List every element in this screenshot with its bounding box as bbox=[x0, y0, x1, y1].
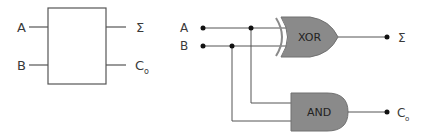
block-input-b-label: B bbox=[17, 58, 26, 73]
junction-b bbox=[230, 44, 235, 49]
xor-input-arc bbox=[276, 18, 282, 56]
input-a-terminal bbox=[201, 26, 206, 31]
wire-a-to-and bbox=[251, 28, 292, 103]
gate-circuit: A B XOR Σ AND C o bbox=[180, 17, 409, 131]
block-output-carry-label: C bbox=[135, 58, 144, 73]
half-adder-diagram: A B Σ C o A B XOR Σ AND C o bbox=[0, 0, 423, 137]
input-b-terminal bbox=[201, 44, 206, 49]
block-output-sum-label: Σ bbox=[136, 20, 144, 35]
block-output-carry-sub: o bbox=[144, 67, 149, 76]
half-adder-box bbox=[48, 8, 106, 84]
circuit-sum-label: Σ bbox=[398, 31, 406, 45]
carry-terminal bbox=[385, 110, 390, 115]
junction-a bbox=[249, 26, 254, 31]
circuit-carry-sub: o bbox=[405, 115, 409, 123]
sum-terminal bbox=[385, 35, 390, 40]
circuit-input-a-label: A bbox=[180, 21, 189, 35]
block-input-a-label: A bbox=[17, 20, 26, 35]
circuit-input-b-label: B bbox=[180, 39, 188, 53]
xor-gate-label: XOR bbox=[298, 31, 321, 44]
block-symbol: A B Σ C o bbox=[17, 8, 149, 84]
and-gate-label: AND bbox=[307, 106, 331, 119]
